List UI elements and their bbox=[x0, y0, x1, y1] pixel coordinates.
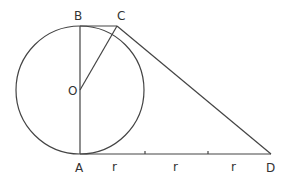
label-o: O bbox=[68, 84, 77, 98]
label-d: D bbox=[266, 161, 275, 175]
geometry-diagram: B C O A D r r r bbox=[0, 0, 292, 181]
segment-oc bbox=[80, 26, 117, 90]
label-a: A bbox=[75, 161, 84, 175]
label-r-2: r bbox=[173, 160, 178, 174]
diagram-canvas: B C O A D r r r bbox=[0, 0, 292, 181]
segment-cd bbox=[117, 26, 271, 154]
label-r-1: r bbox=[112, 160, 117, 174]
label-r-3: r bbox=[231, 160, 236, 174]
label-c: C bbox=[117, 9, 125, 23]
label-b: B bbox=[74, 9, 82, 23]
